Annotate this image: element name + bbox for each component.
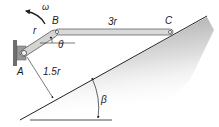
link-bc [55,29,173,35]
link-bc-label: 3r [108,16,118,27]
pin-a [21,50,26,55]
mechanism-diagram: ω B r 3r C θ A 1.5r β [0,0,219,127]
omega-label: ω [42,2,49,12]
pin-c [168,30,171,33]
theta-label: θ [58,39,64,50]
wall-mount [13,40,17,66]
point-c-label: C [165,15,173,26]
omega-rotation-arrow [26,11,45,24]
point-a-label: A [16,66,24,77]
link-ab-label: r [33,25,37,36]
distance-label: 1.5r [43,66,61,77]
point-b-label: B [52,15,59,26]
distance-dimension-line [27,57,53,98]
pin-b [55,30,58,33]
beta-label: β [100,94,107,105]
